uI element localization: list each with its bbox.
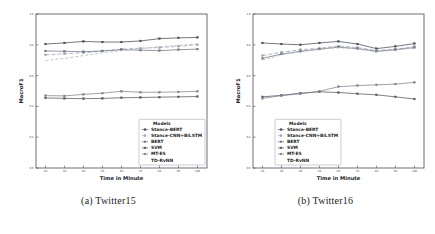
data-point bbox=[357, 43, 359, 45]
legend-title: Models bbox=[289, 121, 307, 126]
x-tick-label-6: 80 bbox=[158, 170, 162, 173]
data-point bbox=[262, 55, 264, 57]
data-point bbox=[338, 41, 340, 43]
x-tick-label-2: 40 bbox=[299, 170, 303, 173]
data-point bbox=[102, 41, 104, 43]
legend-marker bbox=[144, 141, 146, 143]
data-point bbox=[319, 90, 321, 92]
x-tick-label-8: 100 bbox=[195, 170, 200, 173]
chart-twitter16: 0.00.20.40.60.81.02030405060708090100Tim… bbox=[217, 0, 434, 192]
data-point bbox=[140, 97, 142, 99]
chart-twitter15: 0.00.20.40.60.81.02030405060708090100Tim… bbox=[0, 0, 217, 192]
x-tick-label-7: 90 bbox=[177, 170, 181, 173]
data-point bbox=[262, 42, 264, 44]
legend-label-stance-cnn-bilstm: Stance-CNN+BiLSTM bbox=[287, 133, 338, 138]
subfigure-a: 0.00.20.40.60.81.02030405060708090100Tim… bbox=[0, 0, 217, 234]
data-point bbox=[357, 93, 359, 95]
y-tick-label-5: 1.0 bbox=[246, 13, 250, 16]
data-point bbox=[281, 51, 283, 53]
y-tick-label-1: 0.2 bbox=[246, 136, 250, 139]
subfigure-b: 0.00.20.40.60.81.02030405060708090100Tim… bbox=[217, 0, 434, 234]
data-point bbox=[121, 97, 123, 99]
data-point bbox=[357, 85, 359, 87]
y-tick-label-0: 0.0 bbox=[29, 167, 33, 170]
y-tick-label-0: 0.0 bbox=[246, 167, 250, 170]
x-tick-label-0: 20 bbox=[44, 170, 48, 173]
x-axis-title: Time in Minute bbox=[317, 175, 361, 181]
legend-marker bbox=[144, 129, 146, 131]
data-point bbox=[395, 45, 397, 47]
legend-label-svm: SVM bbox=[151, 145, 162, 150]
x-tick-label-6: 80 bbox=[375, 170, 379, 173]
data-point bbox=[45, 97, 47, 99]
data-point bbox=[338, 86, 340, 88]
data-point bbox=[64, 95, 66, 97]
data-point bbox=[102, 50, 104, 52]
x-tick-label-4: 60 bbox=[120, 170, 124, 173]
y-tick-label-5: 1.0 bbox=[29, 13, 33, 16]
data-point bbox=[414, 43, 416, 45]
figure-container: 0.00.20.40.60.81.02030405060708090100Tim… bbox=[0, 0, 435, 234]
x-axis-title: Time in Minute bbox=[100, 175, 144, 181]
data-point bbox=[64, 42, 66, 44]
data-point bbox=[159, 96, 161, 98]
data-point bbox=[414, 81, 416, 83]
series-line-bert bbox=[263, 47, 415, 58]
data-point bbox=[45, 50, 47, 52]
subfigure-caption-b: (b) Twitter16 bbox=[298, 195, 353, 206]
data-point bbox=[395, 83, 397, 85]
x-tick-label-4: 60 bbox=[337, 170, 341, 173]
data-point bbox=[140, 91, 142, 93]
legend-label-td-rvnn: TD-RvNN bbox=[287, 158, 309, 163]
data-point bbox=[83, 98, 85, 100]
x-tick-label-3: 50 bbox=[101, 170, 105, 173]
x-tick-label-2: 40 bbox=[82, 170, 86, 173]
y-axis-title: MacroF1 bbox=[235, 78, 241, 103]
legend-marker bbox=[144, 153, 146, 155]
y-axis-title: MacroF1 bbox=[18, 78, 24, 103]
data-point bbox=[319, 42, 321, 44]
x-tick-label-1: 30 bbox=[280, 170, 284, 173]
data-point bbox=[121, 41, 123, 43]
legend-title: Models bbox=[153, 121, 171, 126]
data-point bbox=[178, 96, 180, 98]
data-point bbox=[140, 40, 142, 42]
x-tick-label-0: 20 bbox=[261, 170, 265, 173]
data-point bbox=[395, 96, 397, 98]
data-point bbox=[281, 95, 283, 97]
data-point bbox=[83, 41, 85, 43]
legend-marker bbox=[280, 147, 282, 149]
plot-area-b: 0.00.20.40.60.81.02030405060708090100Tim… bbox=[217, 0, 434, 192]
legend-label-bert: BERT bbox=[287, 139, 300, 144]
data-point bbox=[178, 45, 180, 47]
data-point bbox=[300, 44, 302, 46]
legend-label-bert: BERT bbox=[151, 139, 164, 144]
data-point bbox=[140, 49, 142, 51]
x-tick-label-3: 50 bbox=[318, 170, 322, 173]
data-point bbox=[262, 97, 264, 99]
data-point bbox=[376, 48, 378, 50]
data-point bbox=[102, 97, 104, 99]
data-point bbox=[83, 93, 85, 95]
plot-area-a: 0.00.20.40.60.81.02030405060708090100Tim… bbox=[0, 0, 217, 192]
data-point bbox=[262, 57, 264, 59]
y-tick-label-2: 0.4 bbox=[246, 105, 250, 108]
x-tick-label-7: 90 bbox=[394, 170, 398, 173]
subfigure-caption-a: (a) Twitter15 bbox=[81, 195, 136, 206]
y-tick-label-4: 0.8 bbox=[29, 44, 33, 47]
data-point bbox=[281, 43, 283, 45]
legend-label-stance-bert: Stance-BERT bbox=[287, 127, 318, 132]
legend-label-stance-cnn-bilstm: Stance-CNN+BiLSTM bbox=[151, 133, 202, 138]
legend-label-mt-es: MT-ES bbox=[151, 151, 166, 156]
y-tick-label-3: 0.6 bbox=[246, 75, 250, 78]
y-tick-label-1: 0.2 bbox=[29, 136, 33, 139]
y-tick-label-2: 0.4 bbox=[29, 105, 33, 108]
data-point bbox=[45, 95, 47, 97]
data-point bbox=[121, 90, 123, 92]
data-point bbox=[159, 38, 161, 40]
data-point bbox=[376, 94, 378, 96]
data-point bbox=[300, 50, 302, 52]
legend: ModelsStance-BERTStance-CNN+BiLSTMBERTSV… bbox=[139, 119, 205, 165]
data-point bbox=[64, 97, 66, 99]
series-line-mt-es bbox=[263, 82, 415, 98]
